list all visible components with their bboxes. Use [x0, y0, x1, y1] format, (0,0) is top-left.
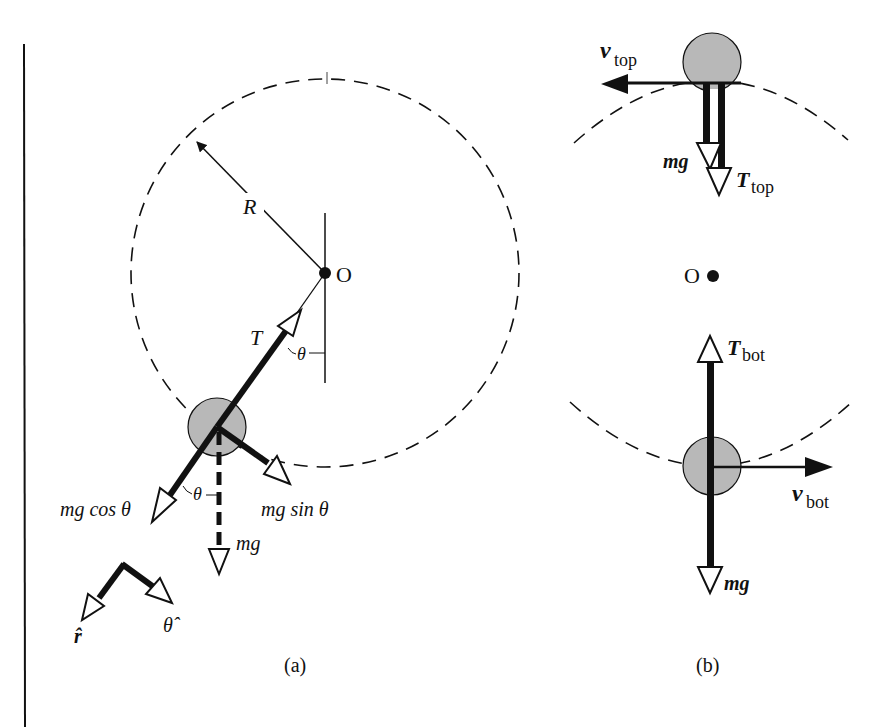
mg-bot-label: mg	[724, 572, 750, 595]
t-bot-sub: bot	[742, 345, 765, 365]
mg-cos-label: mg cos θ	[60, 498, 131, 521]
t-top-arrow-head	[707, 168, 731, 195]
mg-top-label: mg	[663, 150, 689, 173]
v-bot-label: v	[792, 480, 803, 506]
mg-label: mg	[236, 532, 260, 555]
mg-top-arrow-head	[697, 143, 721, 169]
angle-label-top: θ	[297, 344, 306, 364]
theta-hat-label: θ̂	[163, 614, 181, 636]
center-point-b	[707, 270, 719, 282]
v-top-sub: top	[614, 50, 637, 70]
t-bot-label: T	[727, 335, 742, 360]
v-top-label: v	[600, 37, 611, 63]
angle-label-bottom: θ	[193, 484, 202, 504]
center-point	[319, 267, 331, 279]
unit-vectors: r̂ θ̂	[74, 564, 181, 647]
t-top-label: T	[736, 167, 751, 192]
mg-bot-arrow-head	[698, 567, 722, 593]
radius-label: R	[242, 194, 257, 219]
panel-b: v top mg T top O T bot mg v bot (b)	[570, 33, 852, 677]
center-label: O	[336, 262, 352, 287]
margin-rule	[24, 44, 25, 727]
mg-sin-label: mg sin θ	[261, 498, 329, 521]
caption-a: (a)	[284, 654, 306, 677]
caption-b: (b)	[696, 654, 719, 677]
tension-label: T	[250, 325, 264, 350]
t-bot-arrow-head	[698, 336, 722, 362]
circular-motion-diagram: R O T θ mg cos θ mg sin θ mg θ	[0, 0, 888, 727]
t-top-sub: top	[751, 177, 774, 197]
v-bot-arrow-head	[805, 457, 833, 477]
r-hat-label: r̂	[74, 625, 83, 647]
v-bot-sub: bot	[806, 492, 829, 512]
v-top-arrow-head	[601, 74, 628, 94]
panel-a: R O T θ mg cos θ mg sin θ mg θ	[60, 72, 519, 677]
center-label-b: O	[684, 263, 700, 288]
mg-arrow-head	[209, 549, 229, 574]
